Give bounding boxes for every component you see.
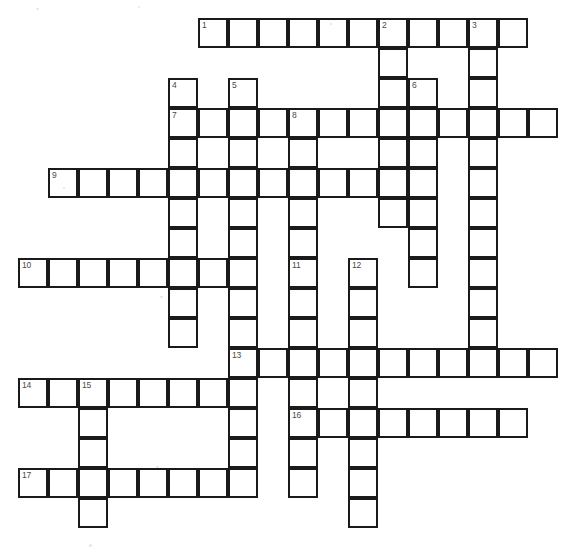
grid-cell-numbered[interactable]: 15	[78, 378, 108, 408]
grid-cell[interactable]	[138, 378, 168, 408]
grid-cell[interactable]	[348, 168, 378, 198]
grid-cell[interactable]	[348, 18, 378, 48]
grid-cell-numbered[interactable]: 3	[468, 18, 498, 48]
grid-cell[interactable]	[228, 228, 258, 258]
grid-cell[interactable]	[528, 348, 558, 378]
grid-cell[interactable]	[288, 168, 318, 198]
grid-cell[interactable]	[78, 438, 108, 468]
grid-cell[interactable]	[198, 108, 228, 138]
grid-cell-numbered[interactable]: 7	[168, 108, 198, 138]
grid-cell[interactable]	[468, 288, 498, 318]
grid-cell-numbered[interactable]: 8	[288, 108, 318, 138]
grid-cell[interactable]	[108, 258, 138, 288]
grid-cell[interactable]	[258, 18, 288, 48]
grid-cell[interactable]	[168, 228, 198, 258]
grid-cell[interactable]	[378, 48, 408, 78]
grid-cell[interactable]	[198, 378, 228, 408]
grid-cell[interactable]	[318, 168, 348, 198]
grid-cell[interactable]	[468, 168, 498, 198]
grid-cell[interactable]	[198, 168, 228, 198]
grid-cell[interactable]	[168, 258, 198, 288]
grid-cell[interactable]	[288, 318, 318, 348]
grid-cell[interactable]	[498, 108, 528, 138]
grid-cell[interactable]	[468, 228, 498, 258]
grid-cell[interactable]	[348, 468, 378, 498]
grid-cell-numbered[interactable]: 17	[18, 468, 48, 498]
grid-cell[interactable]	[108, 378, 138, 408]
grid-cell[interactable]	[348, 348, 378, 378]
grid-cell[interactable]	[228, 18, 258, 48]
grid-cell[interactable]	[378, 198, 408, 228]
grid-cell[interactable]	[408, 198, 438, 228]
grid-cell[interactable]	[348, 408, 378, 438]
grid-cell-numbered[interactable]: 14	[18, 378, 48, 408]
grid-cell[interactable]	[228, 108, 258, 138]
grid-cell[interactable]	[228, 168, 258, 198]
grid-cell[interactable]	[408, 168, 438, 198]
grid-cell[interactable]	[318, 18, 348, 48]
grid-cell[interactable]	[228, 378, 258, 408]
grid-cell[interactable]	[468, 258, 498, 288]
grid-cell[interactable]	[108, 168, 138, 198]
grid-cell[interactable]	[468, 108, 498, 138]
grid-cell[interactable]	[468, 408, 498, 438]
grid-cell[interactable]	[348, 438, 378, 468]
grid-cell[interactable]	[468, 198, 498, 228]
grid-cell[interactable]	[48, 378, 78, 408]
grid-cell[interactable]	[408, 18, 438, 48]
grid-cell[interactable]	[378, 168, 408, 198]
grid-cell[interactable]	[48, 468, 78, 498]
grid-cell-numbered[interactable]: 5	[228, 78, 258, 108]
grid-cell[interactable]	[168, 138, 198, 168]
grid-cell[interactable]	[348, 498, 378, 528]
grid-cell[interactable]	[348, 288, 378, 318]
grid-cell[interactable]	[348, 108, 378, 138]
grid-cell[interactable]	[498, 408, 528, 438]
grid-cell[interactable]	[408, 228, 438, 258]
grid-cell[interactable]	[318, 108, 348, 138]
grid-cell[interactable]	[408, 258, 438, 288]
grid-cell[interactable]	[288, 438, 318, 468]
grid-cell[interactable]	[468, 78, 498, 108]
grid-cell[interactable]	[228, 408, 258, 438]
grid-cell-numbered[interactable]: 16	[288, 408, 318, 438]
grid-cell-numbered[interactable]: 10	[18, 258, 48, 288]
grid-cell[interactable]	[138, 258, 168, 288]
grid-cell[interactable]	[138, 168, 168, 198]
grid-cell[interactable]	[378, 408, 408, 438]
grid-cell-numbered[interactable]: 2	[378, 18, 408, 48]
grid-cell[interactable]	[48, 258, 78, 288]
grid-cell[interactable]	[288, 198, 318, 228]
grid-cell[interactable]	[228, 138, 258, 168]
grid-cell[interactable]	[498, 18, 528, 48]
grid-cell[interactable]	[78, 168, 108, 198]
grid-cell[interactable]	[378, 348, 408, 378]
grid-cell[interactable]	[228, 288, 258, 318]
grid-cell[interactable]	[408, 408, 438, 438]
grid-cell-numbered[interactable]: 13	[228, 348, 258, 378]
grid-cell[interactable]	[378, 138, 408, 168]
grid-cell[interactable]	[438, 18, 468, 48]
grid-cell[interactable]	[348, 318, 378, 348]
crossword-grid[interactable]: 1234567891011121314151617	[0, 0, 567, 551]
grid-cell[interactable]	[288, 378, 318, 408]
grid-cell[interactable]	[198, 258, 228, 288]
grid-cell-numbered[interactable]: 1	[198, 18, 228, 48]
grid-cell[interactable]	[288, 288, 318, 318]
grid-cell[interactable]	[138, 468, 168, 498]
grid-cell[interactable]	[258, 348, 288, 378]
grid-cell[interactable]	[168, 168, 198, 198]
grid-cell[interactable]	[288, 228, 318, 258]
grid-cell-numbered[interactable]: 6	[408, 78, 438, 108]
grid-cell-numbered[interactable]: 11	[288, 258, 318, 288]
grid-cell[interactable]	[408, 108, 438, 138]
grid-cell[interactable]	[108, 468, 138, 498]
grid-cell[interactable]	[468, 318, 498, 348]
grid-cell[interactable]	[78, 468, 108, 498]
grid-cell[interactable]	[198, 468, 228, 498]
grid-cell[interactable]	[228, 318, 258, 348]
grid-cell[interactable]	[168, 318, 198, 348]
grid-cell[interactable]	[438, 348, 468, 378]
grid-cell[interactable]	[468, 348, 498, 378]
grid-cell[interactable]	[318, 348, 348, 378]
